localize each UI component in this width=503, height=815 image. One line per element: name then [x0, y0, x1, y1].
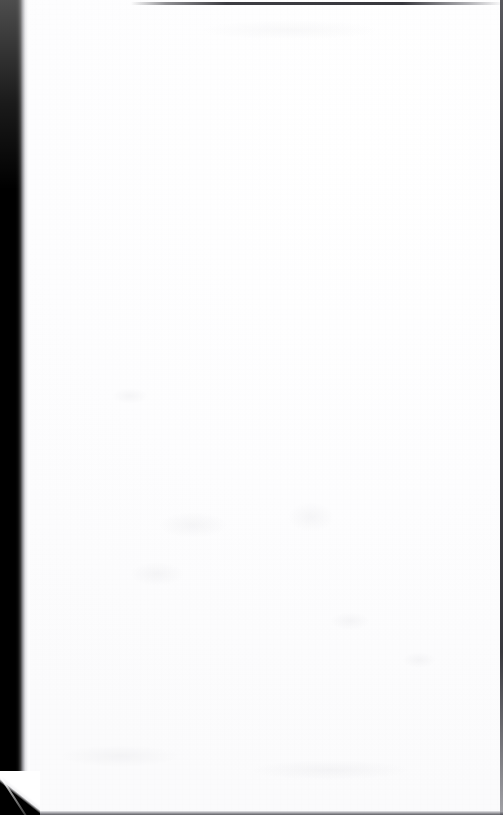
bottom-left-folded-corner — [0, 771, 40, 815]
scanned-page — [0, 0, 503, 815]
fold-crease-line — [0, 771, 40, 813]
top-scan-edge-line — [0, 2, 503, 5]
bottom-scan-edge-line — [0, 811, 503, 815]
gutter-shadow-taper — [0, 0, 30, 190]
paper-surface — [0, 0, 503, 815]
left-book-gutter-shadow — [0, 0, 30, 815]
